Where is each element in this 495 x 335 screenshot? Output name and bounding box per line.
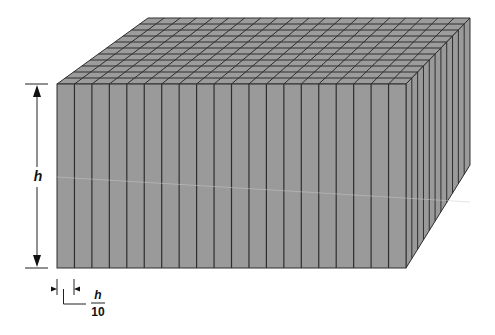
slab-block-diagram: h h 10 (0, 0, 495, 335)
height-dimension: h (25, 84, 48, 268)
subdivided-block (57, 18, 470, 268)
arrow-down-icon (33, 255, 41, 267)
arrow-up-icon (33, 85, 41, 97)
thickness-leader-line (64, 289, 87, 304)
thickness-label-numerator: h (94, 288, 101, 302)
height-label: h (34, 168, 43, 184)
thickness-dimension: h 10 (51, 279, 105, 319)
arrow-right-icon (51, 287, 57, 292)
thickness-label-denominator: 10 (91, 305, 105, 319)
arrow-left-icon (74, 287, 80, 292)
